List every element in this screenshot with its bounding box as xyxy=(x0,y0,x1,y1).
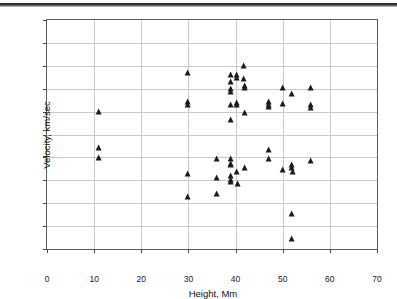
x-tick-label: 20 xyxy=(126,274,156,284)
data-point-marker xyxy=(242,164,248,170)
data-point-marker xyxy=(185,102,191,108)
data-point-marker xyxy=(185,69,191,75)
x-tick-mark xyxy=(283,249,284,253)
gridline-vertical xyxy=(94,20,95,249)
data-point-marker xyxy=(265,155,271,161)
data-point-marker xyxy=(95,154,101,160)
data-point-marker xyxy=(95,108,101,114)
gridline-horizontal xyxy=(47,203,377,204)
data-point-marker xyxy=(234,101,240,107)
x-tick-label: 0 xyxy=(32,274,62,284)
data-point-marker xyxy=(289,91,295,97)
x-tick-mark xyxy=(47,249,48,253)
x-tick-label: 30 xyxy=(173,274,203,284)
data-point-marker xyxy=(265,147,271,153)
data-point-marker xyxy=(234,74,240,80)
x-tick-mark xyxy=(377,249,378,253)
data-point-marker xyxy=(227,79,233,85)
y-tick-mark xyxy=(43,66,47,67)
y-axis-title: Velocity, km/sec xyxy=(41,101,52,168)
data-point-marker xyxy=(227,89,233,95)
x-tick-label: 60 xyxy=(315,274,345,284)
gridline-horizontal xyxy=(47,89,377,90)
data-point-marker xyxy=(308,84,314,90)
data-point-marker xyxy=(235,180,241,186)
x-tick-mark xyxy=(94,249,95,253)
data-point-marker xyxy=(234,168,240,174)
data-point-marker xyxy=(227,102,233,108)
gridline-horizontal xyxy=(47,135,377,136)
x-axis-title: Height, Mm xyxy=(47,288,379,299)
data-point-marker xyxy=(289,210,295,216)
data-point-marker xyxy=(290,168,296,174)
data-point-marker xyxy=(265,103,271,109)
y-tick-mark xyxy=(43,89,47,90)
data-point-marker xyxy=(213,174,219,180)
x-tick-mark xyxy=(236,249,237,253)
y-tick-mark xyxy=(43,43,47,44)
data-point-marker xyxy=(241,63,247,69)
y-tick-mark xyxy=(43,180,47,181)
data-point-marker xyxy=(279,84,285,90)
plot-area: -50-40-30-20-1001020304050 0102030405060… xyxy=(46,19,378,250)
gridline-horizontal xyxy=(47,226,377,227)
data-point-marker xyxy=(242,84,248,90)
x-tick-label: 40 xyxy=(221,274,251,284)
y-tick-mark xyxy=(43,226,47,227)
data-point-marker xyxy=(289,235,295,241)
data-point-marker xyxy=(227,162,233,168)
gridline-horizontal xyxy=(47,43,377,44)
gridline-vertical xyxy=(236,20,237,249)
gridline-horizontal xyxy=(47,66,377,67)
data-point-marker xyxy=(308,105,314,111)
gridline-horizontal xyxy=(47,180,377,181)
data-point-marker xyxy=(213,190,219,196)
x-tick-label: 70 xyxy=(362,274,392,284)
data-point-marker xyxy=(227,116,233,122)
x-tick-mark xyxy=(330,249,331,253)
y-tick-mark xyxy=(43,20,47,21)
gridline-vertical xyxy=(283,20,284,249)
gridline-vertical xyxy=(188,20,189,249)
x-tick-mark xyxy=(141,249,142,253)
x-tick-mark xyxy=(188,249,189,253)
data-point-marker xyxy=(308,157,314,163)
x-tick-label: 50 xyxy=(268,274,298,284)
data-point-marker xyxy=(185,170,191,176)
x-tick-label: 10 xyxy=(79,274,109,284)
data-point-marker xyxy=(227,72,233,78)
data-point-marker xyxy=(185,194,191,200)
gridline-vertical xyxy=(141,20,142,249)
gridline-vertical xyxy=(330,20,331,249)
data-point-marker xyxy=(242,109,248,115)
y-tick-mark xyxy=(43,203,47,204)
data-point-marker xyxy=(279,167,285,173)
data-point-marker xyxy=(95,145,101,151)
data-point-marker xyxy=(241,76,247,82)
data-point-marker xyxy=(213,156,219,162)
data-point-marker xyxy=(227,179,233,185)
data-point-marker xyxy=(279,101,285,107)
